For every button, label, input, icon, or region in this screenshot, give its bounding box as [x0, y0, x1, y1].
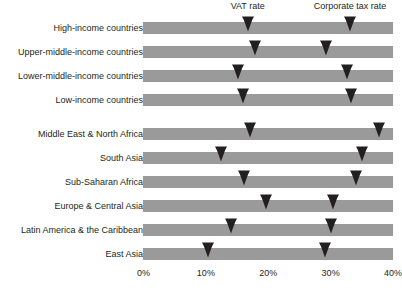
chart-row: Lower-middle-income countries [0, 64, 401, 88]
corporate-tax-rate-marker-icon [350, 170, 363, 188]
chart-row: Europe & Central Asia [0, 194, 401, 218]
vat-rate-marker-icon [243, 122, 256, 140]
corporate-tax-rate-marker-icon [345, 88, 358, 106]
corporate-tax-rate-marker-icon [327, 194, 340, 212]
vat-rate-marker-icon [259, 194, 272, 212]
x-axis: 0%10%20%30%40% [0, 268, 401, 286]
vat-rate-marker-icon [241, 16, 254, 34]
vat-rate-marker-icon [202, 242, 215, 260]
row-track-bar [143, 224, 393, 236]
row-label: Sub-Saharan Africa [65, 170, 143, 194]
chart-row: Sub-Saharan Africa [0, 170, 401, 194]
row-label: Middle East & North Africa [38, 122, 143, 146]
x-axis-tick-label: 20% [259, 268, 277, 278]
row-track-bar [143, 70, 393, 82]
corporate-tax-rate-marker-icon [319, 40, 332, 58]
row-label: Upper-middle-income countries [18, 40, 143, 64]
corporate-tax-rate-marker-icon [319, 242, 332, 260]
chart-row: Middle East & North Africa [0, 122, 401, 146]
vat-rate-marker-icon [215, 146, 228, 164]
row-track-bar [143, 128, 393, 140]
vat-rate-marker-icon [231, 64, 244, 82]
chart-row: Low-income countries [0, 88, 401, 112]
corporate-tax-rate-header: Corporate tax rate [314, 1, 387, 11]
vat-rate-header: VAT rate [231, 1, 265, 11]
x-axis-tick-label: 30% [322, 268, 340, 278]
row-label: Europe & Central Asia [54, 194, 143, 218]
chart-row: South Asia [0, 146, 401, 170]
row-label: East Asia [105, 242, 143, 266]
row-track-bar [143, 46, 393, 58]
corporate-tax-rate-marker-icon [340, 64, 353, 82]
row-track-bar [143, 248, 393, 260]
chart-row: Latin America & the Caribbean [0, 218, 401, 242]
corporate-tax-rate-marker-icon [373, 122, 386, 140]
x-axis-tick-label: 40% [384, 268, 402, 278]
row-label: Latin America & the Caribbean [21, 218, 143, 242]
row-label: High-income countries [53, 16, 143, 40]
corporate-tax-rate-marker-icon [343, 16, 356, 34]
row-label: South Asia [100, 146, 143, 170]
vat-rate-marker-icon [248, 40, 261, 58]
chart-row: Upper-middle-income countries [0, 40, 401, 64]
row-label: Lower-middle-income countries [18, 64, 143, 88]
corporate-tax-rate-marker-icon [355, 146, 368, 164]
corporate-tax-rate-marker-icon [324, 218, 337, 236]
chart-row: East Asia [0, 242, 401, 266]
vat-rate-marker-icon [224, 218, 237, 236]
chart-row: High-income countries [0, 16, 401, 40]
x-axis-tick-label: 0% [137, 268, 150, 278]
x-axis-tick-label: 10% [197, 268, 215, 278]
row-label: Low-income countries [55, 88, 143, 112]
vat-rate-marker-icon [236, 88, 249, 106]
vat-rate-marker-icon [237, 170, 250, 188]
